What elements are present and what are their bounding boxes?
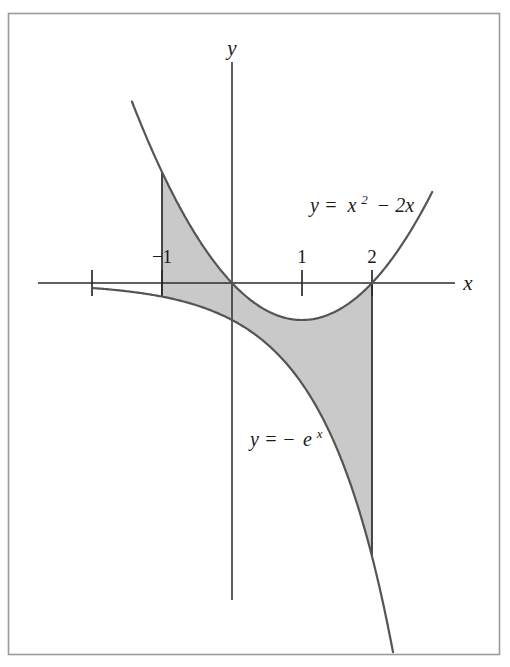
x-tick-label: 2 bbox=[367, 246, 377, 267]
x-tick-label: −1 bbox=[152, 246, 172, 267]
exponential-label: y = − e x bbox=[248, 426, 323, 451]
x-tick-label: 1 bbox=[297, 246, 307, 267]
exponential-label-base: e bbox=[303, 428, 312, 450]
parabola-label-lhs: y = bbox=[308, 194, 337, 217]
figure-container: −112 y x y = x 2 − 2x y = − e x bbox=[0, 0, 510, 667]
math-figure: −112 y x y = x 2 − 2x y = − e x bbox=[0, 0, 510, 667]
svg-text:y = − e x: y = − e x bbox=[248, 426, 323, 451]
parabola-label-rest: − 2x bbox=[377, 194, 414, 216]
exponential-label-lhs: y = − bbox=[248, 428, 296, 451]
x-axis-label: x bbox=[462, 271, 473, 295]
parabola-label-exponent: 2 bbox=[361, 192, 368, 207]
y-axis-label: y bbox=[225, 36, 237, 60]
exponential-label-exponent: x bbox=[316, 426, 323, 441]
parabola-label-base: x bbox=[346, 194, 356, 216]
